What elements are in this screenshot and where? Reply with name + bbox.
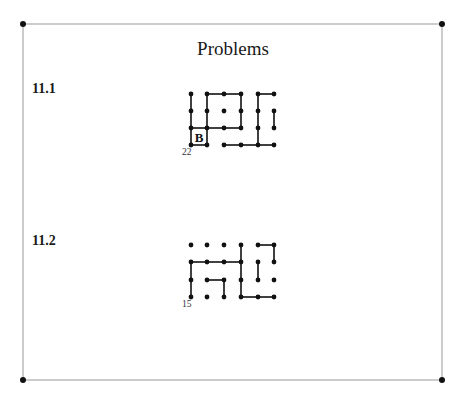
grid-dot bbox=[205, 295, 210, 300]
grid-dot bbox=[222, 295, 227, 300]
grid-dot bbox=[239, 92, 244, 97]
grid-dot bbox=[239, 260, 244, 265]
grid-dot bbox=[256, 92, 261, 97]
grid-dot bbox=[256, 278, 261, 283]
grid-dot bbox=[272, 109, 277, 114]
grid-dot bbox=[222, 109, 227, 114]
grid-dot bbox=[272, 92, 277, 97]
grid-dot bbox=[205, 92, 210, 97]
grid-dot bbox=[205, 126, 210, 131]
grid-dot bbox=[205, 143, 210, 148]
grid-dot bbox=[272, 126, 277, 131]
grid-dot bbox=[222, 143, 227, 148]
frame-corner-dot bbox=[20, 377, 26, 383]
grid-dot bbox=[272, 295, 277, 300]
grid-dot bbox=[205, 109, 210, 114]
grid-dot bbox=[256, 260, 261, 265]
frame-corner-dot bbox=[439, 377, 445, 383]
grid-dot bbox=[256, 109, 261, 114]
grid-dot bbox=[239, 243, 244, 248]
grid-dot bbox=[189, 126, 194, 131]
box-label: B bbox=[195, 130, 204, 145]
problem-count-11-1: 22 bbox=[182, 147, 192, 157]
grid-dot bbox=[189, 278, 194, 283]
grid-dot bbox=[222, 243, 227, 248]
grid-dot bbox=[256, 243, 261, 248]
grid-dot bbox=[222, 260, 227, 265]
grid-dot bbox=[272, 243, 277, 248]
grid-dot bbox=[189, 260, 194, 265]
puzzle-grid-11-2 bbox=[189, 243, 277, 300]
puzzle-grid-11-1: B bbox=[189, 92, 277, 148]
grid-dot bbox=[272, 143, 277, 148]
grid-dot bbox=[189, 109, 194, 114]
frame-corner-dot bbox=[439, 21, 445, 27]
frame-corner-dot bbox=[20, 21, 26, 27]
grid-dot bbox=[222, 126, 227, 131]
grid-dot bbox=[256, 126, 261, 131]
frame-border bbox=[23, 24, 442, 380]
grid-dot bbox=[205, 260, 210, 265]
page-canvas: B bbox=[0, 0, 466, 402]
problem-label-11-1: 11.1 bbox=[32, 81, 56, 97]
page-title: Problems bbox=[0, 38, 466, 60]
grid-dot bbox=[239, 126, 244, 131]
grid-dot bbox=[222, 278, 227, 283]
grid-dot bbox=[205, 243, 210, 248]
problem-count-11-2: 15 bbox=[182, 299, 192, 309]
grid-dot bbox=[239, 295, 244, 300]
grid-dot bbox=[205, 278, 210, 283]
grid-dot bbox=[256, 295, 261, 300]
grid-dot bbox=[256, 143, 261, 148]
grid-dot bbox=[239, 143, 244, 148]
grid-dot bbox=[189, 92, 194, 97]
grid-dot bbox=[189, 243, 194, 248]
grid-dot bbox=[272, 278, 277, 283]
grid-dot bbox=[239, 109, 244, 114]
grid-dot bbox=[239, 278, 244, 283]
problem-label-11-2: 11.2 bbox=[32, 233, 56, 249]
grid-dot bbox=[222, 92, 227, 97]
page-frame bbox=[20, 21, 445, 383]
grid-dot bbox=[272, 260, 277, 265]
